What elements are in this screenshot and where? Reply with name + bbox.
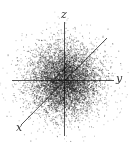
y-axis-label: y bbox=[116, 73, 122, 84]
z-axis-label: z bbox=[61, 9, 67, 20]
x-axis-label: x bbox=[16, 122, 22, 133]
point-cloud-figure: z y x bbox=[0, 0, 132, 142]
